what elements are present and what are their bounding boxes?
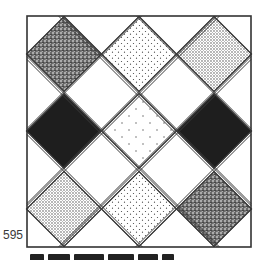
- caption-cropped: [30, 254, 210, 260]
- diamond-light-dots: [102, 172, 177, 247]
- diamond-medium-dots: [27, 172, 102, 247]
- quilt-block-svg: [0, 0, 259, 260]
- diamond-solid-black: [27, 94, 102, 169]
- diamond-medium-dots: [177, 17, 252, 92]
- quilt-diagram: 595: [0, 0, 259, 260]
- diamond-grid: [27, 17, 252, 247]
- diamond-solid-black: [177, 94, 252, 169]
- page-number: 595: [3, 228, 23, 242]
- diamond-light-dots: [102, 17, 177, 92]
- diamond-sparse-dots: [102, 94, 177, 169]
- diamond-dense-stipple: [177, 172, 252, 247]
- diamond-dense-stipple: [27, 17, 102, 92]
